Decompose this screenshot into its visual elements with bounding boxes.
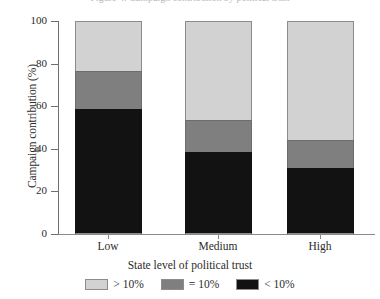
y-tick-label-60: 60 <box>36 99 47 111</box>
legend-item-eq10[interactable]: = 10% <box>161 278 219 290</box>
legend-item-lt10[interactable]: < 10% <box>236 278 294 290</box>
legend-item-gt10[interactable]: > 10% <box>85 278 143 290</box>
bar-segment-lt10[interactable] <box>287 168 354 234</box>
x-tick-low <box>108 234 109 239</box>
y-tick-label-20: 20 <box>36 184 47 196</box>
bar-segment-gt10[interactable] <box>185 21 252 120</box>
x-category-label-medium: Medium <box>163 240 273 252</box>
x-category-label-high: High <box>265 240 375 252</box>
y-tick-40: 40 <box>51 149 58 150</box>
bar-segment-lt10[interactable] <box>75 109 142 234</box>
plot-area: 100 80 60 40 20 0 <box>58 21 368 234</box>
x-axis-title: State level of political trust <box>0 259 380 271</box>
bar-segment-eq10[interactable] <box>75 71 142 109</box>
y-tick-0: 0 <box>51 234 58 235</box>
bar-segment-eq10[interactable] <box>287 140 354 168</box>
legend-label-lt10: < 10% <box>264 278 294 290</box>
y-tick-label-80: 80 <box>36 57 47 69</box>
x-category-label-low: Low <box>53 240 163 252</box>
legend-swatch-icon-eq10 <box>161 279 184 290</box>
y-tick-100: 100 <box>51 21 58 22</box>
y-axis-line <box>58 21 59 234</box>
y-tick-20: 20 <box>51 191 58 192</box>
y-tick-label-40: 40 <box>36 142 47 154</box>
x-tick-high <box>320 234 321 239</box>
y-tick-80: 80 <box>51 64 58 65</box>
legend-label-eq10: = 10% <box>189 278 219 290</box>
legend-swatch-icon-lt10 <box>236 279 259 290</box>
bar-segment-eq10[interactable] <box>185 120 252 152</box>
bar-segment-lt10[interactable] <box>185 152 252 234</box>
figure-title: Figure 4. Campaign contribution by polit… <box>0 0 380 3</box>
y-tick-label-100: 100 <box>31 14 48 26</box>
x-axis-line <box>51 234 375 235</box>
chart-legend: > 10% = 10% < 10% <box>0 278 380 290</box>
stacked-bar-chart-figure: Figure 4. Campaign contribution by polit… <box>0 0 380 299</box>
bar-segment-gt10[interactable] <box>287 21 354 140</box>
table-row[interactable] <box>185 21 252 234</box>
legend-label-gt10: > 10% <box>113 278 143 290</box>
y-tick-label-0: 0 <box>42 227 48 239</box>
cutoff-title-strip: Figure 4. Campaign contribution by polit… <box>0 0 380 7</box>
bar-segment-gt10[interactable] <box>75 21 142 71</box>
table-row[interactable] <box>75 21 142 234</box>
x-tick-medium <box>218 234 219 239</box>
table-row[interactable] <box>287 21 354 234</box>
y-tick-60: 60 <box>51 106 58 107</box>
legend-swatch-icon-gt10 <box>85 279 108 290</box>
